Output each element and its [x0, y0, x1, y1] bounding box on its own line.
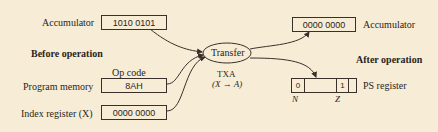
- after-accumulator-label: Accumulator: [363, 19, 415, 30]
- ps-cell-mid: [305, 79, 337, 92]
- ps-cell-z: 1: [337, 79, 349, 92]
- operation-description: (X → A): [212, 79, 242, 89]
- transfer-label: Transfer: [211, 47, 245, 58]
- index-register-label: Index register (X): [21, 108, 93, 119]
- program-memory-value: 8AH: [125, 81, 143, 91]
- program-memory-box: 8AH: [101, 78, 167, 93]
- mnemonic-label: TXA: [217, 69, 236, 79]
- index-register-box: 0000 0000: [101, 105, 167, 120]
- ps-register-label: PS register: [363, 80, 407, 91]
- flag-n-label: N: [292, 94, 298, 104]
- after-accumulator-value: 0000 0000: [303, 20, 346, 30]
- program-memory-label: Program memory: [23, 81, 93, 92]
- ps-register-box: 0 1: [291, 78, 357, 93]
- after-accumulator-box: 0000 0000: [292, 17, 356, 32]
- index-register-value: 0000 0000: [113, 108, 156, 118]
- after-operation-heading: After operation: [356, 54, 422, 65]
- before-accumulator-box: 1010 0101: [101, 15, 167, 30]
- before-operation-heading: Before operation: [31, 48, 103, 59]
- before-accumulator-value: 1010 0101: [113, 18, 156, 28]
- ps-cell-last: [349, 79, 356, 92]
- ps-cell-n: 0: [292, 79, 305, 92]
- flag-z-label: Z: [335, 94, 340, 104]
- opcode-header: Op code: [112, 67, 146, 78]
- before-accumulator-label: Accumulator: [42, 17, 94, 28]
